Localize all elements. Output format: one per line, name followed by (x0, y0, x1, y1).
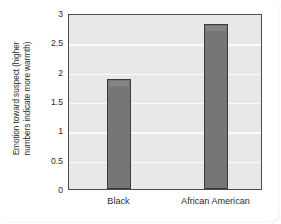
y-axis-title: Emotion toward suspect (higher numbers i… (12, 41, 33, 155)
y-axis-tick-label: 2.5 (51, 38, 63, 48)
y-axis-tick-label: 1 (58, 126, 63, 136)
bar (107, 79, 131, 189)
y-axis-title-line-2: numbers indicate more warmth) (22, 41, 33, 155)
y-axis-tick-label: 1.5 (51, 97, 63, 107)
x-axis-tick-label: African American (181, 196, 250, 206)
y-axis-tick-label: 2 (58, 68, 63, 78)
y-axis-tick-label: 0 (58, 185, 63, 195)
x-axis-tick-labels: BlackAfrican American (68, 196, 262, 212)
chart-figure: Emotion toward suspect (higher numbers i… (0, 0, 281, 224)
y-axis-title-container: Emotion toward suspect (higher numbers i… (0, 0, 44, 196)
y-axis-tick-labels: 00.511.522.53 (44, 14, 65, 190)
bar-series (69, 15, 261, 189)
bar (204, 24, 228, 189)
y-axis-tick-label: 0.5 (51, 156, 63, 166)
x-axis-tick-label: Black (107, 196, 129, 206)
y-axis-tick-label: 3 (58, 9, 63, 19)
y-axis-title-line-1: Emotion toward suspect (higher (12, 41, 23, 155)
plot-area (68, 14, 262, 190)
